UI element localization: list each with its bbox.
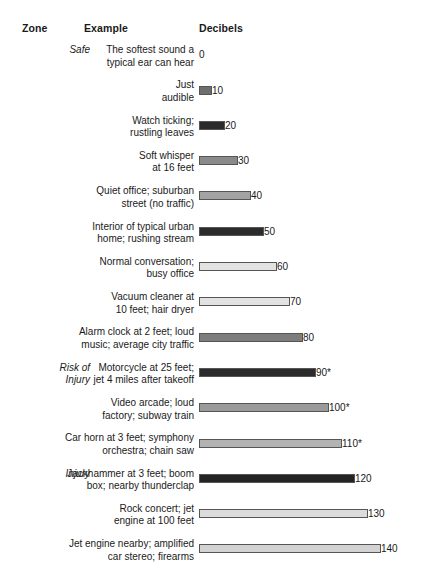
table-row: Rock concert; jet engine at 100 feet130 [0, 503, 424, 533]
example-text: Video arcade; loud factory; subway train [10, 397, 194, 422]
decibel-bar [199, 333, 303, 342]
table-row: Soft whisper at 16 feet30 [0, 150, 424, 180]
table-row: Vacuum cleaner at 10 feet; hair dryer70 [0, 291, 424, 321]
example-text: Car horn at 3 feet; symphony orchestra; … [10, 432, 194, 457]
example-text: The softest sound a typical ear can hear [10, 44, 194, 69]
decibel-bar [199, 474, 355, 483]
decibel-value-label: 70 [290, 296, 301, 308]
decibel-bar-group: 50 [199, 222, 275, 234]
example-text: Vacuum cleaner at 10 feet; hair dryer [10, 291, 194, 316]
decibel-value-label: 60 [277, 261, 288, 273]
example-text: Soft whisper at 16 feet [10, 150, 194, 175]
decibel-value-label: 90* [316, 367, 331, 379]
table-row: Jet engine nearby; amplified car stereo;… [0, 538, 424, 568]
decibel-value-label: 80 [303, 332, 314, 344]
decibel-bar-group: 80 [199, 327, 314, 339]
decibel-bar [199, 121, 225, 130]
decibel-bar-group: 100* [199, 398, 350, 410]
decibel-bar-group: 110* [199, 433, 362, 445]
decibel-bar-group: 70 [199, 292, 301, 304]
decibel-bar-group: 40 [199, 186, 262, 198]
decibel-bar-group: 20 [199, 116, 236, 128]
decibel-bar [199, 227, 264, 236]
decibel-bar-group: 120 [199, 469, 372, 481]
decibel-value-label: 120 [355, 473, 372, 485]
decibel-value-label: 110* [342, 438, 362, 450]
decibel-bar-group: 10 [199, 80, 223, 92]
example-text: Rock concert; jet engine at 100 feet [10, 503, 194, 528]
decibel-bar [199, 509, 368, 518]
decibel-value-label: 50 [264, 226, 275, 238]
column-header-zone: Zone [22, 22, 47, 34]
column-header-example: Example [84, 22, 128, 34]
example-text: Motorcycle at 25 feet; jet 4 miles after… [10, 362, 194, 387]
table-row: Video arcade; loud factory; subway train… [0, 397, 424, 427]
decibel-bar [199, 439, 342, 448]
decibel-value-label: 10 [212, 85, 223, 97]
decibel-bar [199, 368, 316, 377]
decibel-value-label: 130 [368, 508, 385, 520]
decibel-bar [199, 297, 290, 306]
decibel-value-label: 140 [381, 543, 398, 555]
example-text: Jackhammer at 3 feet; boom box; nearby t… [10, 468, 194, 493]
table-row: Alarm clock at 2 feet; loud music; avera… [0, 326, 424, 356]
decibel-bar-group: 130 [199, 504, 385, 516]
decibel-bar [199, 403, 329, 412]
decibel-bar-group: 140 [199, 539, 398, 551]
decibel-value-label: 30 [238, 155, 249, 167]
table-row: Car horn at 3 feet; symphony orchestra; … [0, 432, 424, 462]
example-text: Normal conversation; busy office [10, 256, 194, 281]
decibel-bar [199, 156, 238, 165]
decibel-bar-group: 30 [199, 151, 249, 163]
example-text: Quiet office; suburban street (no traffi… [10, 185, 194, 210]
decibel-bar [199, 86, 212, 95]
table-row: Watch ticking; rustling leaves20 [0, 115, 424, 145]
decibel-value-label: 0 [199, 49, 205, 61]
decibel-value-label: 40 [251, 190, 262, 202]
table-row: Normal conversation; busy office60 [0, 256, 424, 286]
decibel-bar [199, 262, 277, 271]
decibel-bar [199, 544, 381, 553]
example-text: Jet engine nearby; amplified car stereo;… [10, 538, 194, 563]
example-text: Interior of typical urban home; rushing … [10, 221, 194, 246]
decibel-chart: Zone Example Decibels SafeThe softest so… [0, 0, 424, 588]
example-text: Just audible [10, 79, 194, 104]
decibel-bar [199, 191, 251, 200]
example-text: Alarm clock at 2 feet; loud music; avera… [10, 326, 194, 351]
example-text: Watch ticking; rustling leaves [10, 115, 194, 140]
decibel-bar-group: 0 [199, 45, 205, 57]
decibel-bar-group: 60 [199, 257, 288, 269]
table-row: Interior of typical urban home; rushing … [0, 221, 424, 251]
table-row: Risk of InjuryMotorcycle at 25 feet; jet… [0, 362, 424, 392]
table-row: Just audible10 [0, 79, 424, 109]
table-row: InjuryJackhammer at 3 feet; boom box; ne… [0, 468, 424, 498]
decibel-value-label: 100* [329, 402, 350, 414]
decibel-bar-group: 90* [199, 363, 331, 375]
column-header-decibels: Decibels [199, 22, 243, 34]
decibel-value-label: 20 [225, 120, 236, 132]
table-row: SafeThe softest sound a typical ear can … [0, 44, 424, 74]
column-header-row: Zone Example Decibels [0, 22, 424, 38]
table-row: Quiet office; suburban street (no traffi… [0, 185, 424, 215]
